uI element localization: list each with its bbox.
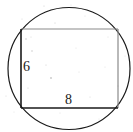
figure-svg: [0, 0, 133, 132]
width-label: 8: [65, 93, 72, 107]
geometry-figure: 6 8: [0, 0, 133, 132]
height-label: 6: [23, 60, 30, 74]
